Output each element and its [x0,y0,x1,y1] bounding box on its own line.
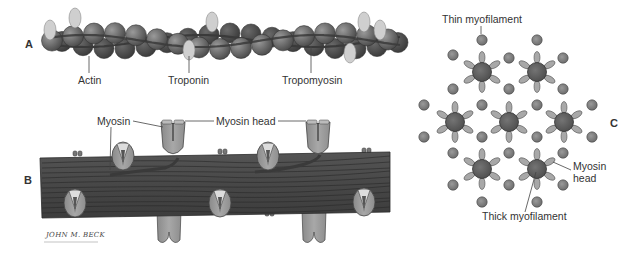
thin-myofilament [558,180,568,190]
thin-myofilament [477,35,487,45]
myosin-knob [223,149,227,154]
thick-filament-core [500,113,519,132]
myosin-head-raised [306,120,330,154]
actin-bead [105,23,126,44]
artist-signature: JOHN M. BECK [46,231,105,239]
troponin-complex [344,43,356,63]
panel-c-letter: C [610,118,618,129]
thick-filament-core [528,160,547,179]
myosin-head-petal [561,102,567,114]
thick-myofilament-label: Thick myofilament [482,211,567,222]
thin-myofilament [558,148,568,158]
myosin-label: Myosin [97,116,130,127]
myosin-head-on-bar [112,142,134,170]
myosin-head-on-bar [257,142,279,170]
actin-bead [336,23,357,44]
thick-myofilament [463,52,502,93]
thin-myofilament [558,84,568,94]
thin-myofilament [477,100,487,110]
troponin-complex [206,12,218,32]
myosin-head-on-bar [64,189,86,217]
troponin-complex [374,20,386,40]
thick-myofilament [490,102,529,143]
myosin-head-petal [534,178,540,190]
thick-myofilament [436,102,475,143]
thin-myofilament [448,84,458,94]
actin-bead [84,23,105,44]
thin-myofilament [558,53,568,63]
thin-myofilament-label: Thin myofilament [442,14,522,25]
myosin-head-leader-line-c [553,162,571,170]
thin-myofilament [448,50,458,60]
actin-bead [126,25,147,46]
myosin-head-label-c: Myosin head [573,160,606,184]
myosin-knob [78,151,82,156]
troponin-complex [358,12,370,32]
thick-myofilament [463,149,502,190]
myosin-head-petal [534,81,540,93]
thick-myofilament [518,149,557,190]
myosin-head-petal [479,178,485,190]
actin-bead [315,23,336,44]
thin-myofilament [477,197,487,207]
thin-myofilament [448,180,458,190]
panel-c-cross-section [419,26,597,212]
thin-myofilament [448,148,458,158]
troponin-complex [69,8,81,28]
thick-filament-core [555,113,574,132]
myosin-head-tip [174,120,184,124]
myosin-head-petal [452,102,458,114]
panel-a-letter: A [25,39,33,50]
thin-myofilament [477,132,487,142]
troponin-complex [44,20,56,40]
panel-b-letter: B [24,175,32,186]
myosin-head-petal [479,52,485,64]
thin-myofilament [587,100,597,110]
myosin-head-tip [307,120,317,124]
myosin-head-tip [162,120,172,124]
thin-myofilament [532,35,542,45]
myosin-head-petal [506,102,512,114]
myosin-head-petal [561,131,567,143]
myosin-head-label: Myosin head [216,116,276,127]
actin-bead [231,37,252,58]
tropomyosin-label: Tropomyosin [282,75,342,86]
thick-filament-core [473,160,492,179]
panel-b-thick-filament [40,120,390,243]
thin-myofilament [587,132,597,142]
thin-myofilament [532,100,542,110]
myosin-head-petal [506,131,512,143]
actin-bead [252,34,273,55]
thin-myofilament [532,197,542,207]
myosin-head-petal [534,52,540,64]
thin-myofilament [504,180,514,190]
actin-bead [273,30,294,51]
thin-myofilament [504,148,514,158]
thin-myofilament [504,84,514,94]
myosin-head-petal [479,149,485,161]
myosin-head-on-bar [209,189,231,217]
myosin-head-tip [319,120,329,124]
myosin-knob [73,151,77,156]
thin-myofilament [504,53,514,63]
thick-myofilament [545,102,584,143]
thick-myofilament [518,52,557,93]
myosin-head-lower [302,210,326,243]
thick-filament-core [446,113,465,132]
myosin-knob [218,149,222,154]
myosin-head-petal [479,81,485,93]
thick-filaments [436,52,584,190]
actin-bead [210,38,231,59]
myosin-head-raised [161,120,185,154]
muscle-filament-diagram: A Actin Troponin Tropomyosin B Myosin My… [0,0,638,254]
thin-myofilament [419,132,429,142]
myosin-head-petal [452,131,458,143]
troponin-label: Troponin [168,75,209,86]
myosin-leader-line [133,121,163,127]
thin-myofilament [419,100,429,110]
thick-filament-core [528,63,547,82]
myosin-head-on-bar [353,188,375,216]
actin-label: Actin [78,75,101,86]
myosin-head-petal [534,149,540,161]
panel-a-thin-filament [42,8,409,73]
